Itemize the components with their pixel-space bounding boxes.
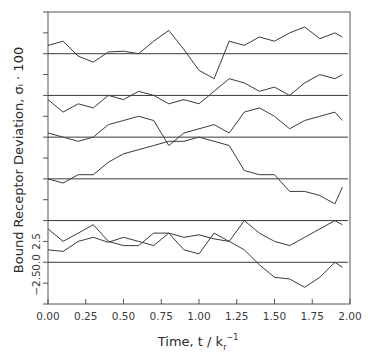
x-tick-label: 1.50	[263, 310, 286, 322]
y-tick-label: 2.5	[30, 233, 42, 250]
x-tick-label: 1.00	[187, 310, 210, 322]
y-axis-ticks: −2.50.02.5	[30, 12, 48, 304]
y-tick-label: −2.5	[30, 270, 42, 296]
x-axis-title: Time, t / kr−1	[157, 333, 238, 352]
y-axis-title: Bound Receptor Deviation, σᵢ · 100	[11, 47, 26, 273]
x-axis-title-main: Time, t / k	[157, 334, 224, 349]
plot-frame	[48, 12, 350, 304]
x-tick-label: 0.75	[150, 310, 173, 322]
trace-4-line	[48, 108, 342, 146]
x-tick-label: 1.75	[301, 310, 324, 322]
x-tick-label: 2.00	[338, 310, 361, 322]
trace-3-line	[48, 137, 342, 204]
x-axis-title-sup: −1	[226, 333, 238, 342]
trace-5-line	[48, 75, 342, 113]
y-tick-label: 0.0	[30, 254, 42, 271]
x-tick-label: 1.25	[225, 310, 248, 322]
x-axis-ticks: 0.000.250.500.751.001.251.501.752.00	[36, 299, 361, 322]
x-tick-label: 0.00	[36, 310, 59, 322]
x-tick-label: 0.50	[112, 310, 135, 322]
trace-baselines	[48, 54, 348, 263]
x-axis-title-sub: r	[223, 343, 227, 352]
trace-6-line	[48, 27, 342, 79]
x-tick-label: 0.25	[74, 310, 97, 322]
data-traces	[48, 27, 342, 287]
plot-border	[48, 12, 350, 304]
time-series-chart: −2.50.02.5 0.000.250.500.751.001.251.501…	[0, 0, 373, 358]
